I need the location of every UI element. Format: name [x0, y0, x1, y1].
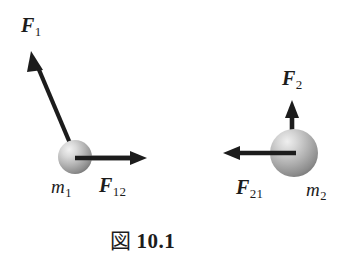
label-m2-subscript: 2 — [320, 189, 326, 203]
caption-number: 10.1 — [137, 229, 176, 253]
label-F2: F2 — [282, 68, 302, 88]
label-m2-symbol: m — [306, 179, 320, 200]
label-F1: F1 — [21, 15, 41, 35]
label-F21-subscript: 21 — [250, 186, 263, 201]
figure-caption: 図10.1 — [110, 224, 175, 254]
label-F12-symbol: F — [99, 174, 112, 196]
label-m1: m1 — [51, 177, 71, 196]
label-m1-symbol: m — [51, 176, 65, 197]
label-F1-symbol: F — [21, 14, 34, 36]
label-m1-subscript: 1 — [65, 186, 71, 200]
label-F12: F12 — [99, 175, 126, 195]
label-F21: F21 — [236, 177, 263, 197]
label-F2-symbol: F — [282, 67, 295, 89]
caption-kanji: 図 — [110, 229, 132, 253]
physics-figure: F1 F12 m1 F2 F21 m2 図10.1 — [0, 0, 351, 256]
label-F12-subscript: 12 — [113, 184, 126, 199]
label-F1-subscript: 1 — [35, 24, 42, 39]
label-F2-subscript: 2 — [296, 77, 303, 92]
vector-F1 — [27, 51, 72, 148]
figure-canvas — [0, 0, 351, 256]
label-F21-symbol: F — [236, 176, 249, 198]
label-m2: m2 — [306, 180, 326, 199]
